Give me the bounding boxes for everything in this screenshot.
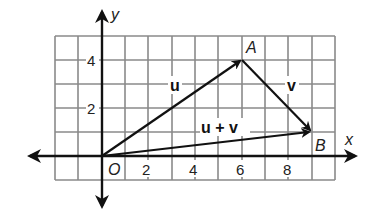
origin-label: O: [108, 161, 120, 178]
x-axis-label: x: [344, 131, 354, 148]
point-a-label: A: [245, 39, 257, 56]
point-b-label: B: [315, 137, 326, 154]
vector-v-label: v: [287, 77, 296, 94]
point-labels: A B: [245, 38, 328, 154]
vector-diagram: 2 4 6 8 2 4 O x y A B u v u + v: [0, 0, 380, 213]
vector-labels: u v u + v: [168, 76, 299, 136]
y-axis-label: y: [110, 6, 120, 23]
x-tick-2: 2: [142, 161, 150, 178]
x-tick-8: 8: [283, 161, 291, 178]
vector-v: [242, 60, 310, 130]
y-tick-2: 2: [87, 100, 95, 117]
x-tick-4: 4: [189, 161, 197, 178]
y-tick-4: 4: [87, 52, 95, 69]
x-tick-6: 6: [236, 161, 244, 178]
vector-u-label: u: [170, 77, 180, 94]
vector-u-plus-v-label: u + v: [201, 119, 238, 136]
